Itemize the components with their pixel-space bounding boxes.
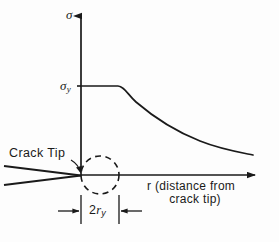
crack-wedge-upper-line (4, 166, 81, 176)
stress-distribution-curve (81, 86, 253, 155)
crack-wedge-lower-line (4, 176, 81, 186)
x-axis-label-line1: r (distance from (147, 179, 235, 193)
yield-stress-symbol: σ (60, 78, 67, 93)
figure-canvas (0, 0, 279, 242)
yield-stress-subscript: y (67, 84, 71, 94)
yield-stress-label: σy (60, 78, 71, 94)
y-axis-label: σ (66, 7, 73, 23)
x-axis-label-line2: crack tip) (147, 193, 235, 206)
crack-tip-stress-figure: σ σy Crack Tip 2ry r (distance fromcrack… (0, 0, 279, 242)
crack-tip-leader-line (71, 160, 81, 172)
x-axis-label: r (distance fromcrack tip) (147, 180, 235, 206)
plastic-zone-dimension-label: 2ry (89, 203, 106, 218)
plastic-zone-subscript: y (101, 208, 106, 218)
crack-tip-label: Crack Tip (9, 146, 65, 160)
